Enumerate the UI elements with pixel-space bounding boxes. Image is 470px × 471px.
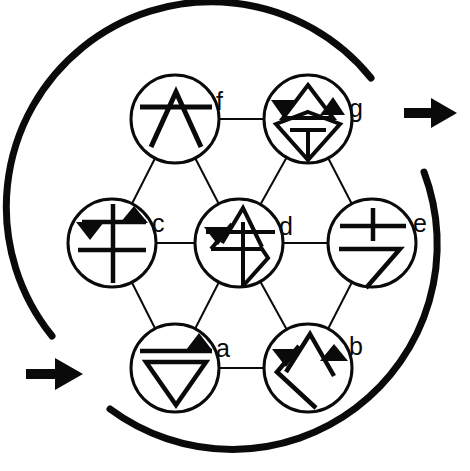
left-arrow-icon (26, 358, 83, 390)
node-d[interactable]: d (195, 199, 293, 287)
node-a-label: a (216, 334, 230, 362)
node-d-label: d (279, 212, 293, 240)
network-diagram: f g (0, 0, 470, 471)
node-g[interactable]: g (264, 75, 363, 163)
node-a-circle[interactable] (131, 324, 219, 412)
node-c[interactable]: c (68, 199, 165, 287)
node-f[interactable]: f (131, 75, 223, 163)
node-e[interactable]: e (328, 199, 427, 288)
node-e-label: e (413, 209, 427, 237)
node-f-label: f (216, 87, 223, 115)
node-a[interactable]: a (131, 324, 230, 412)
node-g-label: g (349, 94, 363, 122)
outer-arc-upper-left (6, 2, 371, 336)
node-b[interactable]: b (264, 324, 363, 412)
node-b-label: b (349, 332, 363, 360)
node-c-label: c (152, 209, 165, 237)
right-arrow-icon (404, 98, 457, 128)
figure-canvas: f g (0, 0, 470, 471)
